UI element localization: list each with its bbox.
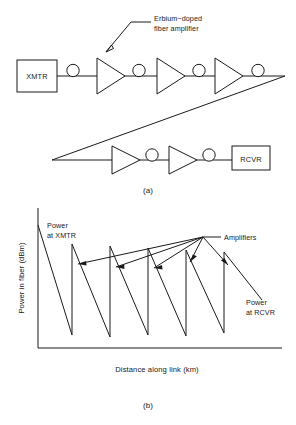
power-at-rcvr-label-line2: at RCVR	[246, 308, 275, 317]
amplifier-triangle-1	[97, 58, 125, 94]
splice-circle-1	[67, 64, 79, 76]
amplifier-triangle-4	[112, 146, 140, 174]
splice-circle-4	[252, 64, 264, 76]
amplifier-leader-lines	[78, 237, 228, 269]
callout-arrow-icon	[106, 22, 151, 52]
x-axis-title: Distance along link (km)	[115, 365, 199, 374]
power-at-xmtr-label-line2: at XMTR	[47, 231, 76, 240]
amplifier-triangle-3	[215, 58, 243, 94]
xmtr-label: XMTR	[26, 72, 47, 81]
splice-circle-6	[203, 149, 215, 161]
panel-b-caption: (b)	[143, 401, 153, 410]
splice-circle-2	[133, 64, 145, 76]
panel-a: Erbium−doped fiber amplifier XMTR	[17, 14, 285, 195]
amplifiers-label: Amplifiers	[224, 233, 257, 242]
figure-root: Erbium−doped fiber amplifier XMTR	[0, 0, 296, 425]
power-at-rcvr-label-line1: Power	[246, 298, 267, 307]
amplifier-triangle-2	[157, 58, 185, 94]
y-axis-title: Power in fiber (dBm)	[17, 242, 26, 314]
rcvr-label: RCVR	[240, 155, 261, 164]
splice-circle-5	[146, 149, 158, 161]
callout-label-line2: fiber amplifier	[154, 24, 199, 33]
panel-b: Amplifiers Power at XMTR Power at RCVR P…	[17, 208, 282, 410]
optical-link-figure: Erbium−doped fiber amplifier XMTR	[0, 0, 296, 425]
splice-circle-3	[193, 64, 205, 76]
power-at-xmtr-label-line1: Power	[47, 221, 68, 230]
panel-a-caption: (a)	[143, 186, 153, 195]
amplifier-triangle-5	[169, 146, 197, 174]
callout-label-line1: Erbium−doped	[154, 14, 202, 23]
